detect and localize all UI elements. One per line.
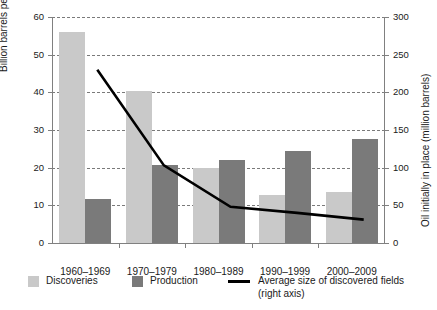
legend-label-line-2: (right axis) xyxy=(258,287,305,300)
line-swatch-icon xyxy=(228,280,250,283)
x-tick-mark xyxy=(119,243,120,248)
x-axis-line xyxy=(48,243,389,244)
production-swatch-icon xyxy=(132,276,143,287)
left-tick-label: 30 xyxy=(4,125,44,135)
legend-label-production: Production xyxy=(150,274,198,287)
right-tick-mark xyxy=(383,243,389,244)
right-tick-label: 250 xyxy=(393,50,433,60)
right-tick-label: 0 xyxy=(393,238,433,248)
left-tick-label: 10 xyxy=(4,200,44,210)
left-tick-label: 50 xyxy=(4,50,44,60)
left-tick-label: 40 xyxy=(4,87,44,97)
left-tick-label: 0 xyxy=(4,238,44,248)
chart-figure: Oil discoveries, production and average … xyxy=(0,0,437,310)
legend-label-discoveries: Discoveries xyxy=(46,274,98,287)
right-axis-title: Oil initially in place (million barrels) xyxy=(420,74,431,227)
x-tick-mark xyxy=(252,243,253,248)
legend-label-line: Average size of discovered fields xyxy=(258,274,404,287)
x-tick-mark xyxy=(318,243,319,248)
left-tick-label: 60 xyxy=(4,12,44,22)
plot-area: 1960–19691970–19791980–19891990–19992000… xyxy=(52,17,385,243)
average-field-size-line xyxy=(52,17,385,243)
chart-legend: Discoveries Production Average size of d… xyxy=(0,274,437,308)
left-tick-mark xyxy=(48,243,53,244)
discoveries-swatch-icon xyxy=(28,276,39,287)
right-tick-label: 300 xyxy=(393,12,433,22)
left-tick-label: 20 xyxy=(4,163,44,173)
x-tick-mark xyxy=(185,243,186,248)
left-axis-title: Billion barrels per year xyxy=(0,0,9,72)
